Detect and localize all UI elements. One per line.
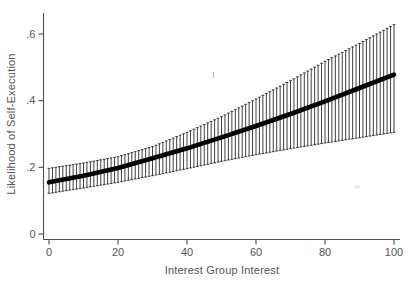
- x-tick-label: 20: [112, 246, 124, 258]
- y-tick-label: .4: [26, 94, 35, 106]
- y-axis-title: Likelihood of Self-Execution: [5, 14, 17, 234]
- confidence-interval-bars: [48, 25, 396, 194]
- x-tick-label: 100: [385, 246, 403, 258]
- x-axis-title: Interest Group Interest: [49, 264, 395, 276]
- figure-root: 0.2.4.6020406080100 Interest Group Inter…: [0, 0, 419, 284]
- x-tick-label: 60: [250, 246, 262, 258]
- y-tick-label: .2: [26, 161, 35, 173]
- y-tick-label: 0: [29, 228, 35, 240]
- y-tick-label: .6: [26, 28, 35, 40]
- plot-svg: 0.2.4.6020406080100: [0, 0, 419, 284]
- x-tick-label: 0: [46, 246, 52, 258]
- x-tick-label: 40: [181, 246, 193, 258]
- x-tick-label: 80: [319, 246, 331, 258]
